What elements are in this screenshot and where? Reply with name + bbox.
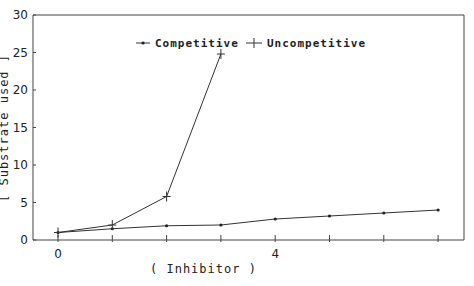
legend: Competitive Uncompetitive (136, 37, 366, 50)
x-tick-label: 4 (271, 247, 279, 261)
series-line-competitive (58, 210, 438, 233)
dot-marker-icon (382, 211, 385, 214)
y-tick-label: 20 (13, 83, 28, 97)
y-tick-label: 0 (20, 233, 28, 247)
dot-marker-icon (328, 214, 331, 217)
dot-marker-icon (219, 223, 222, 226)
chart: 05101520253004 Competitive Uncompetitive… (0, 0, 474, 286)
x-axis-label: ( Inhibitor ) (150, 262, 257, 276)
legend-uncompetitive-label: Uncompetitive (267, 37, 366, 50)
series-line-uncompetitive (58, 54, 221, 233)
legend-dot-marker-icon (141, 41, 144, 44)
x-tick-label: 0 (54, 247, 62, 261)
y-tick-label: 25 (13, 46, 28, 60)
dot-marker-icon (165, 224, 168, 227)
y-tick-label: 30 (13, 8, 28, 22)
series-group (54, 49, 440, 238)
dot-marker-icon (274, 217, 277, 220)
y-tick-label: 5 (20, 196, 28, 210)
y-tick-label: 10 (13, 158, 28, 172)
dot-marker-icon (437, 208, 440, 211)
y-tick-label: 15 (13, 121, 28, 135)
legend-competitive-label: Competitive (155, 37, 239, 50)
y-axis-label: [ Substrate used ] (0, 54, 11, 202)
